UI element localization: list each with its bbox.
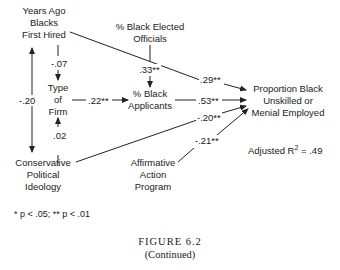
coef-elected-to-applicants: .33** [138,64,161,75]
node-line: of [44,94,72,106]
node-line: % Black Elected [112,21,188,33]
node-line: Unskilled or [246,95,330,107]
coef-applicants-to-outcome: .53** [197,95,220,106]
node-conservative-political-ideology: Conservative Political Ideology [10,157,76,193]
coef-conservative-to-type: .02 [52,130,67,141]
node-line: Blacks [14,17,74,29]
node-line: Type [44,82,72,94]
node-affirmative-action-program: Affirmative Action Program [128,157,178,193]
adjusted-r-squared: Adjusted R2 = .49 [248,142,322,157]
node-line: Menial Employed [246,107,330,119]
coef-type-to-applicants: .22** [87,95,110,106]
significance-note: * p < .05; ** p < .01 [14,209,90,219]
coef-years-to-outcome: .29** [199,74,222,85]
fit-value: = .49 [298,145,322,156]
coef-conservative-to-outcome: -.20** [196,112,222,123]
node-proportion-black-unskilled: Proportion Black Unskilled or Menial Emp… [246,83,330,119]
node-line: Ideology [10,181,76,193]
node-type-of-firm: Type of Firm [44,82,72,118]
node-line: Years Ago [14,5,74,17]
node-black-applicants: % Black Applicants [125,88,175,112]
node-line: Officials [112,33,188,45]
node-line: Applicants [125,100,175,112]
node-line: Action [128,169,178,181]
node-line: % Black [125,88,175,100]
node-black-elected-officials: % Black Elected Officials [112,21,188,45]
node-line: Conservative [10,157,76,169]
node-line: Affirmative [128,157,178,169]
node-line: Program [128,181,178,193]
node-line: Political [10,169,76,181]
coef-years-conservative: -.20 [18,95,36,106]
node-years-ago-blacks-first-hired: Years Ago Blacks First Hired [14,5,74,41]
node-line: Proportion Black [246,83,330,95]
node-line: First Hired [14,29,74,41]
figure-caption: FIGURE 6.2 (Continued) [0,235,340,261]
figure-number: FIGURE 6.2 [0,235,340,248]
coef-years-to-type: -.07 [50,58,68,69]
coef-affirmative-to-outcome: -.21** [194,135,220,146]
fit-label: Adjusted R [248,145,294,156]
node-line: Firm [44,106,72,118]
figure-subcaption: (Continued) [0,248,340,261]
